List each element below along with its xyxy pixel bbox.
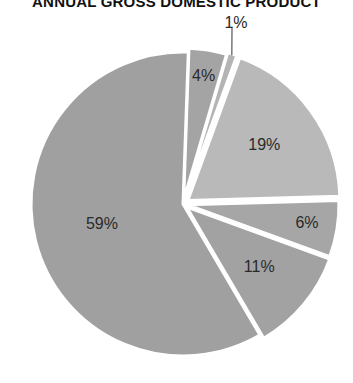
slice-label: 1% bbox=[224, 14, 247, 31]
slice-label: 11% bbox=[244, 258, 275, 275]
pie-chart: 4%1%19%6%11%59% bbox=[0, 0, 353, 383]
slice-label: 19% bbox=[248, 136, 280, 153]
slice-label: 59% bbox=[86, 215, 118, 232]
slice-label: 6% bbox=[295, 214, 318, 231]
slice-label: 4% bbox=[192, 67, 215, 84]
